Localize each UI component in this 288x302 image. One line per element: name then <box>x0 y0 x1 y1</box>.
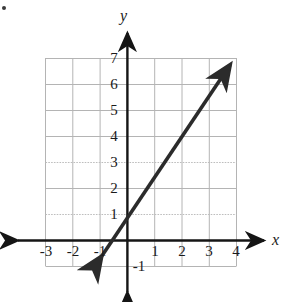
y-tick-label-6: 6 <box>107 77 121 92</box>
y-tick-label-7: 7 <box>107 51 121 66</box>
coordinate-plane-figure: y x -3 -2 -1 1 2 3 4 7 6 5 4 3 2 1 -1 <box>0 0 288 302</box>
grid-horizontal-lines <box>46 59 237 267</box>
y-tick-label-3: 3 <box>107 155 121 170</box>
x-tick-label--3: -3 <box>36 244 56 259</box>
x-tick-label-2: 2 <box>174 244 190 259</box>
y-tick-label-2: 2 <box>107 181 121 196</box>
x-tick-label-3: 3 <box>201 244 217 259</box>
x-tick-label-4: 4 <box>228 244 244 259</box>
y-tick-label-1: 1 <box>107 207 121 222</box>
x-tick-label--1: -1 <box>90 244 110 259</box>
x-axis-label: x <box>272 232 279 248</box>
x-tick-label-1: 1 <box>147 244 163 259</box>
x-tick-label--2: -2 <box>63 244 83 259</box>
y-tick-label-5: 5 <box>107 103 121 118</box>
y-axis-label: y <box>120 8 127 24</box>
y-tick-label-4: 4 <box>107 129 121 144</box>
y-tick-label--1: -1 <box>129 259 149 274</box>
